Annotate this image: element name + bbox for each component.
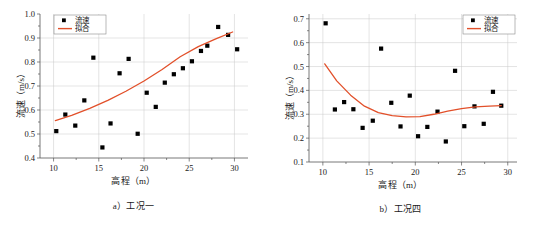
scatter-plot-b: 0.10.20.30.40.50.60.71015202530流速拟合 (267, 0, 534, 190)
svg-text:拟合: 拟合 (75, 23, 90, 33)
svg-text:0.9: 0.9 (24, 33, 35, 43)
svg-text:20: 20 (411, 167, 420, 177)
svg-text:15: 15 (365, 167, 374, 177)
svg-text:25: 25 (457, 167, 466, 177)
svg-text:0.5: 0.5 (24, 129, 35, 139)
svg-text:拟合: 拟合 (484, 23, 499, 33)
plot-area-b: 0.10.20.30.40.50.60.71015202530流速拟合 (267, 0, 534, 190)
svg-text:0.8: 0.8 (24, 57, 35, 67)
svg-text:30: 30 (230, 163, 239, 173)
figure-container: 0.40.50.60.70.80.91.01015202530流速拟合 高程（m… (0, 0, 534, 225)
svg-text:10: 10 (319, 167, 328, 177)
svg-text:15: 15 (95, 163, 104, 173)
x-axis-label-b: 高程（m） (267, 178, 534, 191)
svg-text:0.4: 0.4 (24, 153, 35, 163)
svg-text:1.0: 1.0 (24, 9, 35, 19)
chart-panel-a: 0.40.50.60.70.80.91.01015202530流速拟合 高程（m… (0, 0, 267, 225)
scatter-plot-a: 0.40.50.60.70.80.91.01015202530流速拟合 (0, 0, 267, 190)
plot-area-a: 0.40.50.60.70.80.91.01015202530流速拟合 (0, 0, 267, 190)
svg-text:0.1: 0.1 (293, 157, 304, 167)
chart-panel-b: 0.10.20.30.40.50.60.71015202530流速拟合 高程（m… (267, 0, 534, 225)
x-axis-label-a: 高程（m） (0, 174, 267, 187)
y-axis-label-b: 流速（m/s） (283, 71, 296, 120)
y-axis-label-a: 流速（m/s） (14, 69, 27, 118)
svg-text:0.6: 0.6 (293, 38, 304, 48)
svg-text:10: 10 (49, 163, 58, 173)
svg-text:0.7: 0.7 (293, 14, 304, 24)
svg-text:20: 20 (140, 163, 149, 173)
svg-text:30: 30 (504, 167, 513, 177)
panel-caption-b: b）工况四 (267, 202, 534, 215)
svg-text:0.2: 0.2 (293, 133, 304, 143)
svg-text:25: 25 (185, 163, 194, 173)
panel-caption-a: a）工况一 (0, 199, 267, 212)
